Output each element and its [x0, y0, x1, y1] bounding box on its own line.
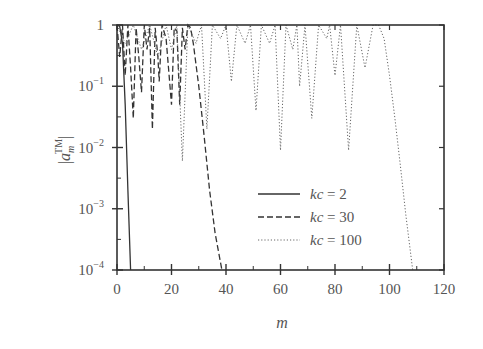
- y-tick-label: 10−2: [78, 137, 104, 156]
- chart-canvas: 020406080100120110−110−210−310−4 m |amTM…: [0, 0, 483, 349]
- y-axis-title: |amTM|: [53, 136, 76, 165]
- y-axis-title-sup: TM: [53, 139, 64, 154]
- x-tick-label: 120: [433, 281, 456, 297]
- plot-frame: [117, 25, 444, 270]
- legend-label: kc = 30: [310, 209, 354, 225]
- y-tick-label: 1: [97, 17, 105, 33]
- y-axis-title-sub: m: [65, 146, 76, 153]
- x-tick-label: 80: [328, 281, 343, 297]
- x-tick-label: 100: [378, 281, 401, 297]
- x-tick-label: 60: [273, 281, 288, 297]
- y-tick-label: 10−3: [78, 198, 104, 217]
- legend-label: kc = 2: [310, 186, 347, 202]
- axis-ticks: [112, 25, 444, 275]
- y-tick-label: 10−1: [78, 75, 104, 94]
- series-line-kc-100: [117, 25, 413, 270]
- y-tick-label: 10−4: [78, 259, 104, 278]
- x-tick-label: 40: [219, 281, 234, 297]
- svg-text:|amTM|: |amTM|: [53, 136, 76, 165]
- x-axis-title: m: [276, 314, 288, 331]
- legend: kc = 2kc = 30kc = 100: [258, 186, 362, 248]
- x-tick-label: 0: [113, 281, 121, 297]
- x-tick-label: 20: [164, 281, 179, 297]
- legend-label: kc = 100: [310, 232, 362, 248]
- series-line-kc-30: [117, 25, 222, 270]
- plot-series: [117, 25, 413, 270]
